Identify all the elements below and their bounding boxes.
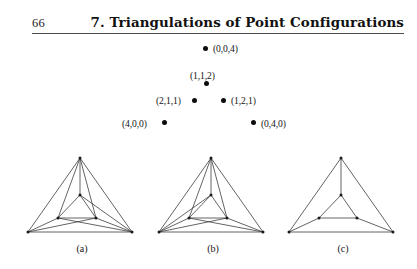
edge-top-inner_right <box>80 158 96 218</box>
vertex-bottom_right <box>262 231 265 234</box>
config-point-dot <box>192 98 197 103</box>
edge-bottom_right-inner_top <box>80 195 132 232</box>
vertex-inner_top <box>210 194 213 197</box>
vertex-inner_right <box>226 217 229 220</box>
edge-inner_top-inner_left <box>58 195 80 218</box>
vertex-top <box>79 157 82 160</box>
edge-inner_top-inner_left <box>189 195 211 218</box>
chapter-title: 7. Triangulations of Point Configuration… <box>91 14 404 30</box>
vertex-top <box>210 157 213 160</box>
vertex-inner_left <box>57 217 60 220</box>
edge-inner_top-inner_left <box>319 195 341 218</box>
vertex-bottom_left <box>288 231 291 234</box>
config-point-label: (1,2,1) <box>231 95 256 106</box>
vertex-inner_right <box>356 217 359 220</box>
triangulation-a: (a) <box>22 150 142 269</box>
edge-inner_right-inner_top <box>341 195 357 218</box>
config-point-dot <box>203 46 208 51</box>
edge-bottom_right-top <box>80 158 132 232</box>
triangulation-figures: (a)(b)(c) <box>0 150 417 269</box>
vertex-inner_left <box>188 217 191 220</box>
edge-top-bottom_left <box>289 158 341 232</box>
vertex-bottom_left <box>158 231 161 234</box>
page-number: 66 <box>32 16 45 31</box>
triangulation-c-caption: (c) <box>283 243 403 254</box>
vertex-inner_top <box>340 194 343 197</box>
edge-inner_right-inner_top <box>211 195 227 218</box>
edge-inner_right-inner_top <box>80 195 96 218</box>
header-rule <box>32 33 404 34</box>
point-configuration: (0,0,4)(1,1,2)(2,1,1)(1,2,1)(4,0,0)(0,4,… <box>0 38 417 138</box>
edge-bottom_right-top <box>341 158 393 232</box>
triangulation-c: (c) <box>283 150 403 269</box>
config-point-dot <box>251 120 256 125</box>
vertex-inner_right <box>95 217 98 220</box>
triangulation-b: (b) <box>153 150 273 269</box>
running-header: 66 7. Triangulations of Point Configurat… <box>32 14 404 34</box>
edge-bottom_right-top <box>211 158 263 232</box>
config-point-dot <box>162 120 167 125</box>
edge-bottom_right-inner_left <box>58 218 132 232</box>
config-point-label: (2,1,1) <box>156 95 181 106</box>
triangulation-c-graph <box>283 150 403 242</box>
triangulation-b-caption: (b) <box>153 243 273 254</box>
vertex-inner_top <box>79 194 82 197</box>
config-point-dot <box>204 81 209 86</box>
vertex-bottom_right <box>131 231 134 234</box>
page: 66 7. Triangulations of Point Configurat… <box>0 0 417 269</box>
config-point-dot <box>221 98 226 103</box>
triangulation-b-graph <box>153 150 273 242</box>
edge-top-inner_left <box>189 158 211 218</box>
triangulation-a-caption: (a) <box>22 243 142 254</box>
config-point-label: (4,0,0) <box>122 118 147 129</box>
vertex-inner_left <box>318 217 321 220</box>
vertex-top <box>340 157 343 160</box>
config-point-label: (0,4,0) <box>261 118 286 129</box>
edge-bottom_right-inner_left <box>189 218 263 232</box>
config-point-label: (0,0,4) <box>213 43 238 54</box>
triangulation-a-graph <box>22 150 142 242</box>
edge-bottom_left-inner_right <box>28 218 96 232</box>
config-point-label: (1,1,2) <box>190 70 215 81</box>
vertex-bottom_right <box>392 231 395 234</box>
vertex-bottom_left <box>27 231 30 234</box>
edge-top-inner_left <box>58 158 80 218</box>
edge-top-inner_right <box>211 158 227 218</box>
